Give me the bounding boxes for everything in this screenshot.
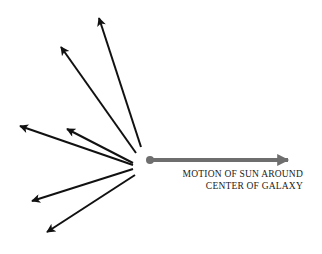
star-arrow-3 — [20, 126, 133, 165]
diagram-canvas: MOTION OF SUN AROUND CENTER OF GALAXY — [0, 0, 322, 254]
star-arrow-1 — [99, 18, 141, 147]
sun-motion-label-line1: MOTION OF SUN AROUND — [183, 169, 303, 180]
sun-motion-label-line2: CENTER OF GALAXY — [206, 181, 303, 192]
arrow-diagram — [0, 0, 322, 254]
sun-motion-arrow — [146, 156, 288, 164]
star-motion-arrows — [20, 18, 141, 232]
star-arrow-6 — [47, 175, 135, 232]
